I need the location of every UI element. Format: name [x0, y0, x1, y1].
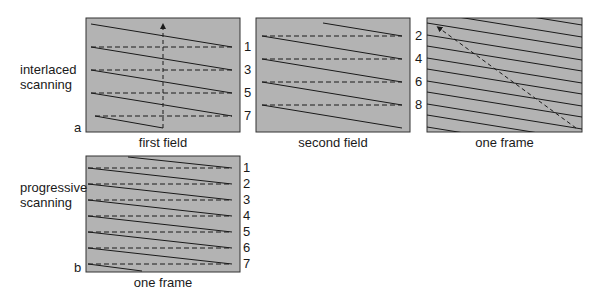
- line-number: 8: [415, 97, 422, 112]
- second-field-caption: second field: [256, 135, 410, 150]
- figure-tag-b: b: [74, 260, 81, 275]
- interlaced-frame-panel: [427, 0, 582, 152]
- first-field-panel: [86, 18, 240, 132]
- line-number: 2: [415, 28, 422, 43]
- line-number: 4: [415, 51, 422, 66]
- line-number: 6: [243, 240, 250, 255]
- interlaced-label-line2: scanning: [20, 77, 76, 92]
- interlaced-label-line1: interlaced: [20, 62, 76, 77]
- line-number: 7: [243, 256, 250, 271]
- interlaced-frame-caption: one frame: [427, 135, 582, 150]
- line-number: 2: [243, 176, 250, 191]
- line-number: 3: [243, 192, 250, 207]
- line-number: 6: [415, 74, 422, 89]
- interlaced-label: interlaced scanning: [20, 62, 76, 92]
- progressive-frame-panel: [86, 156, 240, 272]
- progressive-label: progressive scanning: [20, 180, 87, 210]
- first-field-caption: first field: [86, 135, 240, 150]
- line-number: 4: [243, 208, 250, 223]
- line-number: 5: [244, 85, 251, 100]
- figure-tag-a: a: [74, 120, 81, 135]
- line-number: 3: [244, 62, 251, 77]
- progressive-label-line2: scanning: [20, 195, 87, 210]
- progressive-label-line1: progressive: [20, 180, 87, 195]
- progressive-frame-caption: one frame: [86, 275, 240, 290]
- line-number: 7: [244, 108, 251, 123]
- line-number: 1: [243, 160, 250, 175]
- second-field-panel: [256, 18, 410, 132]
- line-number: 5: [243, 224, 250, 239]
- line-number: 1: [244, 39, 251, 54]
